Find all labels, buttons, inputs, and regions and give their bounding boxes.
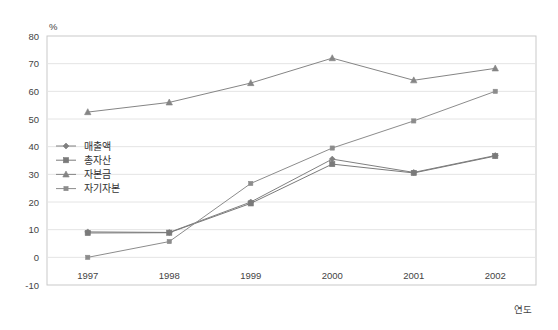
data-point-marker: [248, 201, 253, 206]
data-point-marker: [330, 146, 334, 150]
y-axis-tick-label: 40: [28, 141, 39, 152]
data-point-marker: [85, 230, 90, 235]
x-axis-tick-label: 1997: [77, 270, 98, 281]
line-chart: 80706050403020100-10%1997199819992000200…: [0, 0, 558, 330]
data-point-marker: [330, 161, 335, 166]
y-axis-tick-label: 20: [28, 197, 39, 208]
legend-label-자본금: 자본금: [84, 169, 111, 180]
y-axis-tick-label: 0: [34, 252, 39, 263]
chart-container: 80706050403020100-10%1997199819992000200…: [0, 0, 558, 330]
data-point-marker: [412, 119, 416, 123]
legend-label-자기자본: 자기자본: [84, 183, 120, 194]
y-axis-tick-label: -10: [25, 280, 39, 291]
y-axis-tick-label: 30: [28, 169, 39, 180]
data-point-marker: [167, 239, 171, 243]
x-axis-tick-label: 2001: [403, 270, 424, 281]
y-axis-tick-label: 60: [28, 86, 39, 97]
x-axis-tick-label: 1999: [240, 270, 261, 281]
x-axis-title: 연도: [514, 304, 532, 315]
data-point-marker: [493, 89, 497, 93]
legend-label-매출액: 매출액: [84, 141, 111, 152]
legend-marker-square-icon: [63, 158, 68, 163]
y-axis-tick-label: 70: [28, 58, 39, 69]
x-axis-tick-label: 1998: [159, 270, 180, 281]
y-axis-tick-label: 80: [28, 31, 39, 42]
x-axis-tick-label: 2000: [322, 270, 343, 281]
data-point-marker: [249, 181, 253, 185]
title-strip: [0, 0, 558, 10]
legend-label-총자산: 총자산: [84, 155, 111, 166]
data-point-marker: [167, 230, 172, 235]
data-point-marker: [411, 170, 416, 175]
data-point-marker: [493, 153, 498, 158]
legend-marker-small-square-icon: [64, 187, 68, 191]
x-axis-tick-label: 2002: [485, 270, 506, 281]
y-axis-tick-label: 50: [28, 114, 39, 125]
data-point-marker: [86, 255, 90, 259]
y-axis-unit-label: %: [49, 21, 58, 32]
y-axis-tick-label: 10: [28, 224, 39, 235]
